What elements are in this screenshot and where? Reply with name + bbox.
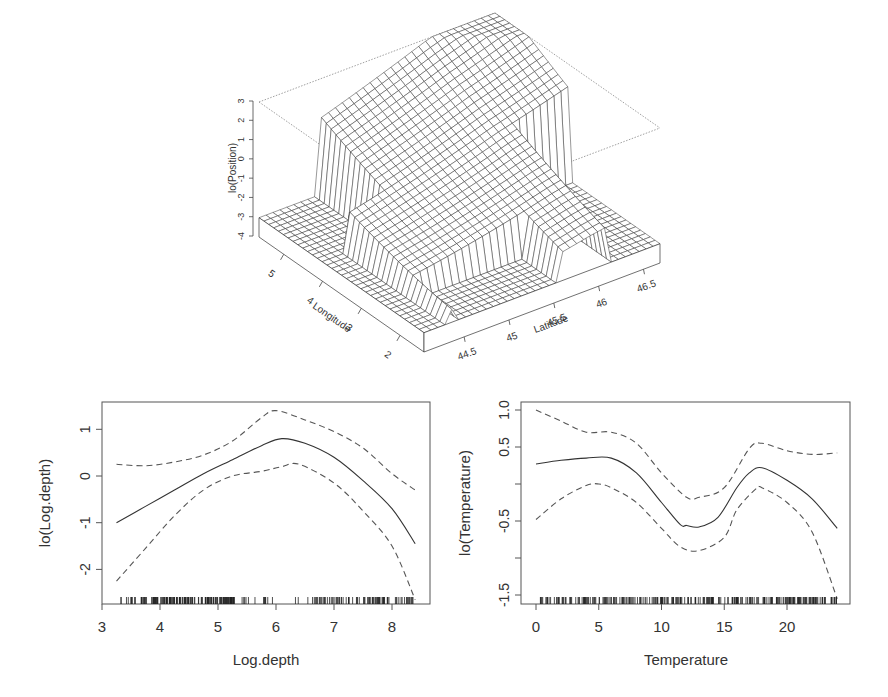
confidence-band-line: [536, 484, 837, 599]
y-tick-label: 0.5: [496, 437, 512, 457]
y-tick-label: 0: [77, 472, 93, 480]
z-tick-label: -4: [236, 232, 246, 240]
x-tick-label: 6: [272, 618, 280, 635]
y-tick-label: -1.5: [496, 583, 512, 607]
x-tick-label: 10: [653, 618, 670, 635]
x-axis-label: Temperature: [644, 651, 728, 668]
y-axis-label: lo(Log.depth): [36, 459, 53, 547]
longitude-tick-label: 2: [383, 348, 394, 360]
plot-frame: [521, 402, 850, 604]
confidence-band-line: [536, 410, 837, 500]
fit-line: [117, 439, 416, 544]
log-depth-plot: 34567810-1-2 Log.depth lo(Log.depth): [36, 402, 430, 668]
x-tick-label: 3: [98, 618, 106, 635]
plot-lines: [536, 410, 837, 599]
y-axis-label: lo(Temperature): [456, 450, 473, 556]
x-tick-label: 5: [595, 618, 603, 635]
z-axis-label: lo(Position): [227, 143, 238, 193]
surface-plot-3d: 3210-1-2-3-4543244.54545.54646.5 lo(Posi…: [227, 13, 660, 362]
latitude-tick-label: 46: [594, 296, 609, 310]
latitude-tick-label: 45: [505, 329, 520, 343]
x-tick-label: 15: [716, 618, 733, 635]
y-tick-label: -1: [77, 516, 93, 529]
longitude-tick-label: 5: [266, 267, 277, 279]
latitude-tick-label: 46.5: [635, 277, 657, 294]
figure: 3210-1-2-3-4543244.54545.54646.5 lo(Posi…: [0, 0, 888, 697]
y-tick-label: -0.5: [496, 509, 512, 533]
x-tick-label: 0: [532, 618, 540, 635]
x-tick-label: 20: [779, 618, 796, 635]
plot-lines: [117, 411, 416, 600]
y-tick-label: 1: [77, 425, 93, 433]
z-tick-label: 3: [236, 98, 246, 103]
rug-marks: [540, 597, 836, 604]
z-tick-label: 1: [236, 137, 246, 142]
rug-marks: [121, 597, 413, 604]
y-tick-label: -2: [77, 563, 93, 576]
z-tick-label: -2: [236, 193, 246, 201]
latitude-tick-label: 44.5: [456, 345, 478, 362]
confidence-band-line: [117, 463, 416, 599]
z-tick-label: 2: [236, 118, 246, 123]
y-tick-label: 1.0: [496, 400, 512, 420]
x-axis-label: Log.depth: [233, 651, 300, 668]
x-tick-label: 8: [388, 618, 396, 635]
confidence-band-line: [117, 411, 416, 490]
fit-line: [536, 457, 837, 528]
longitude-axis-label: Longitude: [311, 300, 354, 334]
x-tick-label: 5: [214, 618, 222, 635]
x-tick-label: 4: [156, 618, 164, 635]
x-tick-label: 7: [330, 618, 338, 635]
z-tick-label: -3: [236, 213, 246, 221]
temperature-plot: 051015201.00.5-0.5-1.5 Temperature lo(Te…: [456, 400, 850, 668]
